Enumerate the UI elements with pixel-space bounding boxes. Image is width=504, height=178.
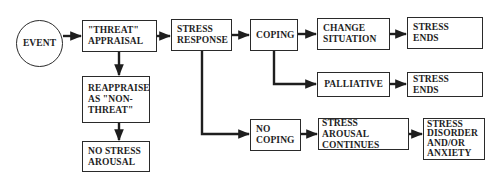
node-coping: COPING — [250, 19, 298, 51]
node-stress-arousal-continues: STRESS AROUSAL CONTINUES — [318, 118, 409, 150]
node-event: EVENT — [16, 20, 63, 67]
node-stress-ends-1: STRESS ENDS — [407, 17, 483, 49]
node-stress-arousal-continues-label: STRESS AROUSAL CONTINUES — [322, 118, 405, 151]
node-palliative-label: PALLIATIVE — [324, 79, 383, 90]
arrow-coping-to-palliative — [274, 51, 316, 84]
node-palliative: PALLIATIVE — [317, 72, 390, 97]
node-coping-label: COPING — [256, 30, 295, 41]
node-stress-ends-1-label: STRESS ENDS — [413, 22, 477, 44]
node-reappraise: REAPPRAISE AS "NON- THREAT" — [82, 76, 150, 123]
node-no-coping-label: NO COPING — [256, 124, 295, 146]
node-no-coping: NO COPING — [250, 119, 301, 151]
arrow-stress-response-to-no-coping — [202, 51, 249, 134]
node-stress-disorder-label: STRESS DISORDER AND/OR ANXIETY — [427, 120, 478, 158]
node-reappraise-label: REAPPRAISE AS "NON- THREAT" — [88, 83, 150, 116]
node-stress-response: STRESS RESPONSE — [171, 19, 232, 51]
node-stress-ends-2-label: STRESS ENDS — [413, 74, 477, 96]
node-stress-response-label: STRESS RESPONSE — [177, 24, 228, 46]
node-no-stress-arousal-label: NO STRESS AROUSAL — [88, 146, 141, 168]
node-event-label: EVENT — [23, 38, 56, 49]
node-change-situation-label: CHANGE SITUATION — [323, 23, 377, 45]
node-threat-appraisal: "THREAT" APPRAISAL — [82, 20, 157, 52]
node-no-stress-arousal: NO STRESS AROUSAL — [82, 141, 150, 172]
node-threat-appraisal-label: "THREAT" APPRAISAL — [88, 25, 143, 47]
node-stress-ends-2: STRESS ENDS — [407, 72, 483, 97]
node-stress-disorder: STRESS DISORDER AND/OR ANXIETY — [423, 118, 485, 160]
node-change-situation: CHANGE SITUATION — [317, 18, 390, 50]
